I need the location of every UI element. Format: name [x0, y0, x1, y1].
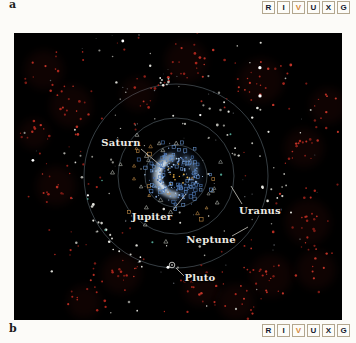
label-jupiter: Jupiter: [131, 211, 173, 222]
wavelength-letter-U: U: [307, 1, 320, 14]
wavelength-letter-X: X: [322, 1, 335, 14]
wavelength-key-top: RIVUXG: [262, 1, 350, 14]
label-uranus: Uranus: [239, 205, 281, 216]
wavelength-letter-R: R: [262, 324, 275, 337]
wavelength-letter-G: G: [337, 1, 350, 14]
wavelength-letter-R: R: [262, 1, 275, 14]
wavelength-letter-I: I: [277, 324, 290, 337]
wavelength-key-bottom: RIVUXG: [262, 324, 350, 337]
pluto-position-marker: [169, 262, 175, 268]
outer-solar-system-map: SaturnJupiterUranusNeptunePluto: [14, 33, 342, 320]
scatter-red-kbo-clusters: [19, 33, 342, 320]
panel-label-a: a: [9, 0, 16, 11]
label-neptune: Neptune: [186, 234, 235, 245]
solar-system-scatter-figure: SaturnJupiterUranusNeptunePluto: [14, 33, 342, 320]
wavelength-letter-V: V: [292, 324, 305, 337]
wavelength-letter-U: U: [307, 324, 320, 337]
pointer-line-pluto: [176, 268, 184, 276]
wavelength-letter-G: G: [337, 324, 350, 337]
pointer-line-uranus: [231, 186, 242, 204]
label-pluto: Pluto: [185, 272, 216, 283]
wavelength-letter-I: I: [277, 1, 290, 14]
wavelength-letter-X: X: [322, 324, 335, 337]
wavelength-letter-V: V: [292, 1, 305, 14]
panel-label-b: b: [9, 323, 17, 335]
neptune-orbit: [84, 84, 268, 268]
orbit-circles: [84, 84, 268, 268]
label-saturn: Saturn: [101, 137, 141, 148]
